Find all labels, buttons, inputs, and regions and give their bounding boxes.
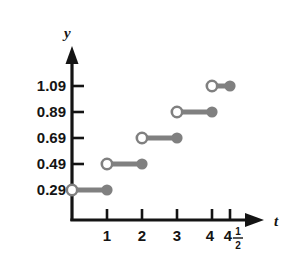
step-segment-0-69 — [137, 132, 183, 143]
x-tick-label-4-half-numerator: 1 — [235, 226, 241, 237]
open-endpoint-marker — [137, 133, 147, 143]
closed-endpoint-marker — [136, 158, 147, 169]
step-function-chart: 1.09 0.89 0.69 0.49 0.29 1 2 3 4 4 1 2 y… — [0, 0, 299, 271]
y-axis-title: y — [62, 25, 71, 41]
y-axis-ticks — [72, 86, 84, 190]
x-tick-label-4-and-half: 4 1 2 — [224, 226, 243, 251]
step-segment-0-89 — [172, 106, 218, 117]
x-tick-label-4: 4 — [206, 227, 215, 244]
y-tick-label-0-89: 0.89 — [37, 103, 66, 120]
open-endpoint-marker — [102, 159, 112, 169]
y-tick-label-0-69: 0.69 — [37, 129, 66, 146]
x-axis-ticks — [107, 209, 230, 220]
open-endpoint-marker — [207, 81, 217, 91]
x-tick-label-3: 3 — [173, 227, 181, 244]
x-axis-title: t — [274, 213, 279, 229]
y-tick-label-1-09: 1.09 — [37, 77, 66, 94]
step-segment-0-29 — [67, 184, 113, 195]
step-segment-0-49 — [102, 158, 148, 169]
x-axis — [70, 213, 264, 227]
x-tick-label-4-half-whole: 4 — [224, 227, 233, 244]
step-segment-1-09 — [207, 80, 236, 91]
closed-endpoint-marker — [101, 184, 112, 195]
x-tick-label-4-half-denominator: 2 — [235, 240, 241, 251]
chart-canvas: 1.09 0.89 0.69 0.49 0.29 1 2 3 4 4 1 2 y… — [0, 0, 299, 271]
closed-endpoint-marker — [171, 132, 182, 143]
closed-endpoint-marker — [224, 80, 235, 91]
x-tick-label-2: 2 — [138, 227, 146, 244]
x-tick-label-1: 1 — [103, 227, 111, 244]
y-tick-label-0-49: 0.49 — [37, 155, 66, 172]
open-endpoint-marker — [67, 185, 77, 195]
closed-endpoint-marker — [206, 106, 217, 117]
y-tick-label-0-29: 0.29 — [37, 181, 66, 198]
open-endpoint-marker — [172, 107, 182, 117]
